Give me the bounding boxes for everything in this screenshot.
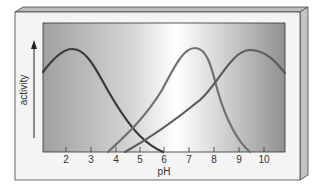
x-tick-label: 10 bbox=[258, 154, 270, 165]
activity-vs-ph-chart: 2 3 4 5 6 7 8 9 10 pH activity bbox=[0, 0, 324, 194]
y-axis-title: activity bbox=[18, 75, 29, 106]
x-tick-label: 4 bbox=[113, 154, 119, 165]
x-tick-label: 3 bbox=[88, 154, 94, 165]
x-tick-label: 8 bbox=[211, 154, 217, 165]
x-tick-label: 2 bbox=[63, 154, 69, 165]
x-tick-label: 9 bbox=[236, 154, 242, 165]
x-axis-title: pH bbox=[158, 166, 171, 177]
box-side-face bbox=[300, 7, 308, 180]
x-tick-label: 5 bbox=[137, 154, 143, 165]
x-tick-label: 7 bbox=[186, 154, 192, 165]
box-top-face bbox=[15, 7, 308, 12]
x-tick-label: 6 bbox=[161, 154, 167, 165]
